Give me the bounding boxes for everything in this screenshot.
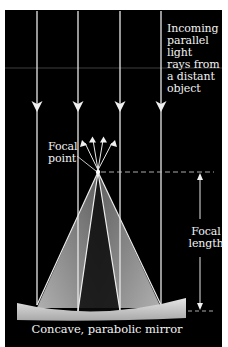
mirror-label: Concave, parabolic mirror bbox=[22, 323, 192, 335]
up-arrow-icon bbox=[100, 137, 107, 143]
focal-point-label: Focal point bbox=[48, 141, 88, 165]
incoming-rays-label: Incoming parallel light rays from a dist… bbox=[167, 23, 227, 95]
label-line: length bbox=[186, 238, 226, 250]
label-line: object bbox=[167, 83, 227, 95]
up-arrow-icon bbox=[89, 137, 96, 143]
focal-point-marker bbox=[96, 170, 100, 174]
focal-length-label: Focal length bbox=[186, 226, 226, 250]
down-arrow-icons bbox=[32, 101, 167, 112]
up-arrow-icon bbox=[110, 140, 117, 147]
label-line: point bbox=[48, 153, 88, 165]
